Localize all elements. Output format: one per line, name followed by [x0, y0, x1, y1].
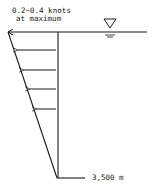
velocity-envelope-line	[8, 32, 57, 178]
diagram-canvas	[0, 0, 153, 196]
water-level-icon	[104, 19, 116, 37]
speed-qualifier-label: at maximum	[16, 15, 61, 23]
depth-label: 3,500 m	[92, 174, 124, 182]
velocity-profile-diagram: 0.2~0.4 knots at maximum 3,500 m	[0, 0, 153, 196]
